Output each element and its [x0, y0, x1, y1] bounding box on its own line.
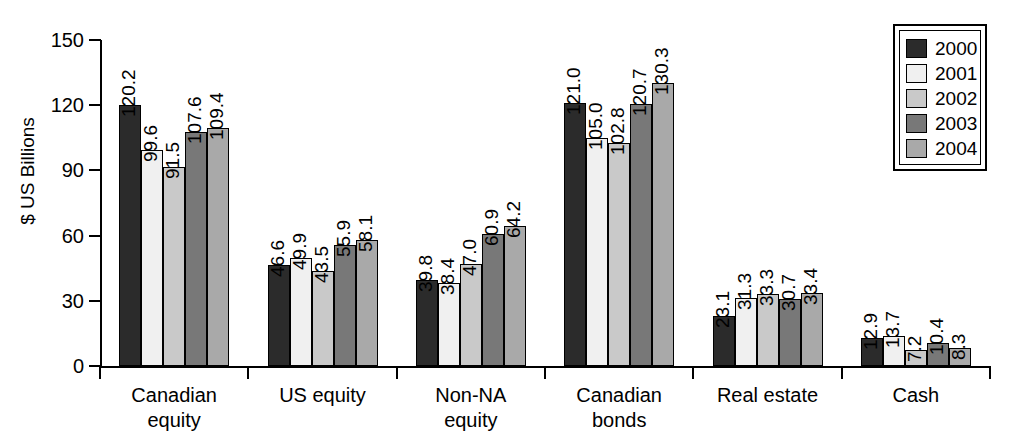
bar: [290, 258, 312, 366]
legend-item: 2004: [906, 136, 976, 161]
bar-value-label: 107.6: [185, 97, 204, 145]
bar-value-label: 47.0: [460, 239, 479, 276]
legend-label: 2004: [935, 139, 977, 158]
bar-value-label: 8.3: [949, 334, 968, 360]
bar-value-label: 105.0: [586, 102, 605, 150]
bar-value-label: 30.7: [779, 274, 798, 311]
legend-item: 2000: [906, 36, 976, 61]
bar-value-label: 99.6: [141, 125, 160, 162]
bar: [564, 103, 586, 366]
y-tick-label: 30: [26, 291, 84, 311]
y-tick-label: 150: [26, 30, 84, 50]
bar-value-label: 60.9: [482, 209, 501, 246]
x-group-separator-tick: [841, 366, 843, 379]
bar-value-label: 33.3: [757, 269, 776, 306]
y-tick-label: 90: [26, 160, 84, 180]
bar-value-label: 13.7: [883, 311, 902, 348]
bar-value-label: 46.6: [268, 240, 287, 277]
bar: [119, 105, 141, 366]
bar: [504, 226, 526, 366]
bar: [460, 264, 482, 366]
bar-value-label: 43.5: [312, 246, 331, 283]
y-tick-label: 120: [26, 95, 84, 115]
bar-value-label: 109.4: [207, 93, 226, 141]
bar: [438, 283, 460, 366]
bar-value-label: 120.2: [119, 69, 138, 117]
x-category-label: Non-NA equity: [397, 383, 545, 433]
bar-value-label: 58.1: [356, 215, 375, 252]
bar-value-label: 120.7: [630, 68, 649, 116]
bar: [268, 265, 290, 366]
bar: [652, 83, 674, 366]
x-category-label: Real estate: [693, 383, 841, 408]
bar: [608, 143, 630, 366]
bar: [356, 240, 378, 366]
bar: [312, 271, 334, 366]
grouped-bar-chart: $ US Billions 0306090120150 120.299.691.…: [0, 0, 1015, 442]
y-tick-mark: [89, 300, 101, 302]
y-tick-mark: [89, 169, 101, 171]
legend-label: 2002: [935, 89, 977, 108]
bar: [416, 280, 438, 366]
bar-value-label: 10.4: [927, 318, 946, 355]
legend-inner-frame: 20002001200220032004: [899, 30, 981, 165]
bar: [207, 128, 229, 366]
bar: [141, 150, 163, 366]
legend: 20002001200220032004: [893, 24, 987, 171]
bar-value-label: 49.9: [290, 233, 309, 270]
bar-value-label: 12.9: [861, 313, 880, 350]
legend-item: 2001: [906, 61, 976, 86]
bar-value-label: 33.4: [801, 268, 820, 305]
bar: [586, 138, 608, 366]
bar-value-label: 55.9: [334, 220, 353, 257]
x-group-separator-tick: [692, 366, 694, 379]
x-group-separator-tick: [396, 366, 398, 379]
legend-label: 2001: [935, 64, 977, 83]
y-axis-line: [100, 40, 102, 367]
x-group-separator-tick: [99, 366, 101, 379]
y-tick-mark: [89, 39, 101, 41]
bar-value-label: 121.0: [564, 67, 583, 115]
legend-label: 2000: [935, 39, 977, 58]
y-tick-label: 0: [26, 356, 84, 376]
legend-swatch: [906, 114, 927, 133]
legend-swatch: [906, 39, 927, 58]
x-category-label: Canadian bonds: [545, 383, 693, 433]
bar-value-label: 64.2: [504, 201, 523, 238]
legend-swatch: [906, 89, 927, 108]
legend-swatch: [906, 139, 927, 158]
y-tick-mark: [89, 104, 101, 106]
bar: [185, 132, 207, 366]
x-category-label: US equity: [248, 383, 396, 408]
x-category-label: Canadian equity: [100, 383, 248, 433]
x-group-separator-tick: [247, 366, 249, 379]
bar-value-label: 23.1: [713, 291, 732, 328]
bar: [630, 104, 652, 366]
legend-label: 2003: [935, 114, 977, 133]
legend-item: 2003: [906, 111, 976, 136]
bar: [334, 245, 356, 366]
y-tick-label: 60: [26, 226, 84, 246]
x-group-separator-tick: [544, 366, 546, 379]
x-category-label: Cash: [842, 383, 990, 408]
bar-value-label: 38.4: [438, 258, 457, 295]
bar-value-label: 39.8: [416, 255, 435, 292]
bar-value-label: 7.2: [905, 336, 924, 362]
legend-item: 2002: [906, 86, 976, 111]
bar-value-label: 91.5: [163, 142, 182, 179]
legend-swatch: [906, 64, 927, 83]
x-group-separator-tick: [989, 366, 991, 379]
bar-value-label: 31.3: [735, 273, 754, 310]
y-tick-mark: [89, 235, 101, 237]
bar: [482, 234, 504, 366]
bar-value-label: 102.8: [608, 107, 627, 155]
bar: [163, 167, 185, 366]
bar-value-label: 130.3: [652, 47, 671, 95]
